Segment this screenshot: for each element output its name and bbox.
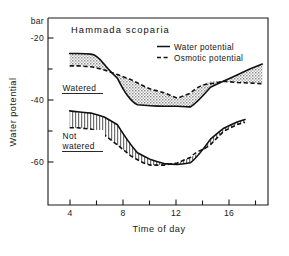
annotation-not-watered: Not watered — [61, 130, 105, 152]
y-tick-label-minus60: -60 — [31, 157, 44, 167]
legend-label-osmotic-potential: Osmotic potential — [174, 54, 243, 63]
x-tick-label-8: 8 — [120, 208, 125, 218]
x-tick-label-12: 12 — [171, 208, 181, 218]
legend: Water potential Osmotic potential — [157, 43, 243, 63]
y-tick-label-minus40: -40 — [31, 95, 44, 105]
annotation-watered-label: Watered — [63, 83, 97, 93]
x-tick-label-4: 4 — [67, 208, 72, 218]
y-axis-ticks — [48, 38, 54, 162]
y-axis-title: Water potential — [8, 78, 18, 147]
annotation-watered: Watered — [61, 82, 105, 94]
water-potential-chart: -20 -40 -60 bar 4 8 12 16 Time of day Wa… — [0, 0, 289, 256]
x-axis-title: Time of day — [132, 224, 185, 234]
x-tick-label-16: 16 — [224, 208, 234, 218]
figure-container: -20 -40 -60 bar 4 8 12 16 Time of day Wa… — [0, 0, 289, 256]
plot-title: Hammada scoparia — [71, 24, 170, 35]
annotation-not-watered-label-line2: watered — [62, 141, 95, 151]
annotation-not-watered-label-line1: Not — [63, 131, 77, 141]
y-tick-label-minus20: -20 — [31, 33, 44, 43]
legend-label-water-potential: Water potential — [174, 43, 234, 52]
y-axis-unit-label: bar — [31, 16, 44, 26]
x-axis-ticks — [70, 200, 256, 206]
